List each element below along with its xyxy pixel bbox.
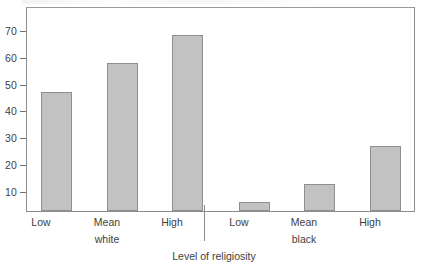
bar-white-low [41,92,72,211]
bar-chart: 70 60 50 40 30 20 10 Low Mean High Low M… [0,0,428,270]
plot-area [26,7,415,212]
x-group-label-white: white [72,233,142,245]
y-tick-label-10: 10 [0,187,17,197]
y-tick-label-30: 30 [0,133,17,143]
x-label-black-low: Low [204,216,274,228]
x-label-black-mean: Mean [269,216,339,228]
bar-white-high [172,35,203,211]
bar-white-mean [107,63,138,211]
y-tick-label-70: 70 [0,26,17,36]
y-tick-label-50: 50 [0,80,17,90]
bar-black-high [370,146,401,211]
y-tick-label-20: 20 [0,160,17,170]
x-group-label-black: black [269,233,339,245]
x-label-white-mean: Mean [72,216,142,228]
x-axis-title: Level of religiosity [0,250,428,262]
x-label-white-high: High [137,216,207,228]
x-label-black-high: High [335,216,405,228]
cropped-caption-artifact [22,0,322,4]
y-tick-label-40: 40 [0,106,17,116]
bar-black-low [239,202,270,211]
bar-black-mean [304,184,335,211]
y-tick-label-60: 60 [0,53,17,63]
x-label-white-low: Low [6,216,76,228]
bars-layer [27,8,414,211]
